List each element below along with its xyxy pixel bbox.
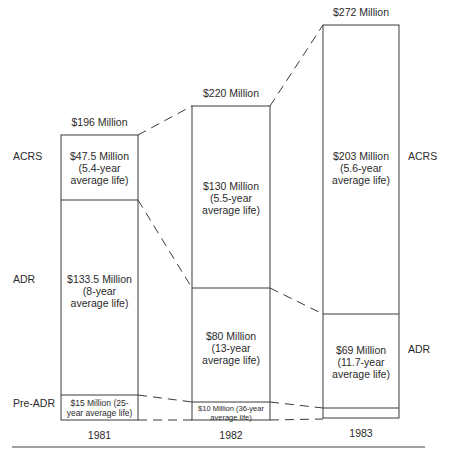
side-label-preadr-left: Pre-ADR xyxy=(13,397,55,409)
segment-label-1981-preadr: $15 Million (25- year average life) xyxy=(61,398,138,418)
segment-label-1983-acrs: $203 Million (5.6-year average life) xyxy=(323,150,399,186)
side-label-acrs-left: ACRS xyxy=(13,150,42,162)
segment-label-1982-adr: $80 Million (13-year average life) xyxy=(192,330,270,366)
side-label-acrs-right: ACRS xyxy=(408,150,437,162)
total-label-1982: $220 Million xyxy=(186,87,276,99)
segment-label-1982-acrs: $130 Million (5.5-year average life) xyxy=(192,180,270,216)
chart-lines xyxy=(0,0,449,456)
segment-label-1981-acrs: $47.5 Million (5.4-year average life) xyxy=(61,150,138,186)
total-label-1983: $272 Million xyxy=(316,6,406,18)
bar-1982 xyxy=(192,106,270,420)
side-label-adr-right: ADR xyxy=(408,343,430,355)
segment-label-1983-adr: $69 Million (11.7-year average life) xyxy=(323,344,399,380)
year-label-1981: 1981 xyxy=(61,429,138,441)
segment-label-1982-preadr: $10 Million (36-year average life) xyxy=(192,404,270,422)
year-label-1982: 1982 xyxy=(192,429,270,441)
segment-label-1981-adr: $133.5 Million (8-year average life) xyxy=(61,273,138,309)
year-label-1983: 1983 xyxy=(323,427,399,439)
total-label-1981: $196 Million xyxy=(61,116,138,128)
side-label-adr-left: ADR xyxy=(13,273,35,285)
